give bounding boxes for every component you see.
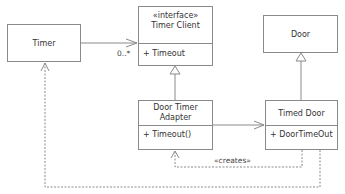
class-name-line1: Door Timer <box>139 103 212 113</box>
operation: + Timeout() <box>143 130 191 140</box>
operation: + Timeout <box>143 49 185 59</box>
compartment-divider <box>139 125 212 126</box>
class-door-timer-adapter: Door Timer Adapter + Timeout() <box>138 100 213 150</box>
multiplicity-label: 0..* <box>117 49 130 58</box>
class-name: Timed Door <box>266 109 337 119</box>
class-name: Timer <box>8 39 80 49</box>
compartment-divider <box>139 43 212 44</box>
class-timer-client: «interface» Timer Client + Timeout <box>138 6 213 66</box>
class-name: Timer Client <box>139 21 212 31</box>
stereotype-label: «interface» <box>139 11 212 21</box>
class-name: Door <box>264 30 337 40</box>
operation: + DoorTimeOut <box>270 130 333 140</box>
class-timed-door: Timed Door + DoorTimeOut <box>265 100 338 150</box>
class-name-line2: Adapter <box>139 113 212 123</box>
class-door: Door <box>263 15 338 53</box>
class-timer: Timer <box>7 24 81 62</box>
creates-label: «creates» <box>214 156 251 165</box>
compartment-divider <box>266 125 337 126</box>
